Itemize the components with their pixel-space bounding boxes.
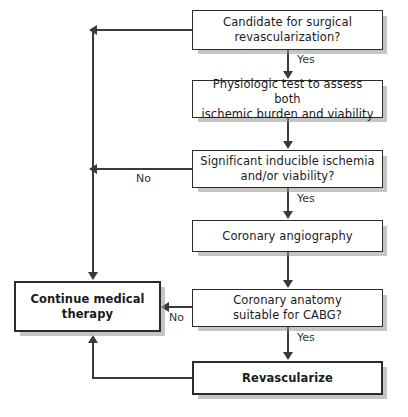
arrowhead-down-angiography — [283, 211, 293, 219]
connector-revascularize-loop-horizontal — [92, 377, 193, 379]
node-candidate-line2: revascularization? — [234, 30, 340, 44]
node-revascularize-text: Revascularize — [236, 371, 339, 386]
connector-revascularize-loop-vertical — [92, 343, 94, 378]
edge-label-yes-1: Yes — [297, 53, 315, 66]
node-significant-line1: Significant inducible ischemia — [200, 154, 374, 168]
node-physiologic-line1: Physiologic test to assess both — [213, 77, 363, 106]
node-physiologic-line2: ischemic burden and viability — [201, 107, 373, 121]
node-significant-line2: and/or viability? — [241, 169, 335, 183]
node-coronary-anatomy-suitable[interactable]: Coronary anatomy suitable for CABG? — [192, 289, 383, 327]
node-medical-therapy-text: Continue medical therapy — [24, 292, 150, 322]
node-revascularize-line1: Revascularize — [242, 371, 333, 385]
node-angiography-line1: Coronary angiography — [222, 229, 352, 243]
flowchart-diagram: Yes Yes Yes No No Candidate for surgical… — [0, 0, 408, 417]
edge-label-yes-3: Yes — [297, 331, 315, 344]
node-significant-text: Significant inducible ischemia and/or vi… — [194, 154, 380, 184]
node-candidate-text: Candidate for surgical revascularization… — [217, 15, 358, 45]
node-anatomy-text: Coronary anatomy suitable for CABG? — [227, 293, 348, 323]
arrowhead-down-medical-therapy — [88, 272, 98, 280]
arrowhead-down-revascularize — [283, 352, 293, 360]
node-anatomy-line1: Coronary anatomy — [233, 293, 342, 307]
arrowhead-left-significant-no — [89, 164, 97, 174]
node-coronary-angiography[interactable]: Coronary angiography — [192, 220, 383, 252]
connector-anatomy-no-horizontal — [169, 306, 193, 308]
node-candidate-line1: Candidate for surgical — [223, 15, 352, 29]
connector-significant-to-angiography — [287, 188, 289, 211]
node-candidate-for-surgical-revascularization[interactable]: Candidate for surgical revascularization… — [192, 10, 383, 50]
node-angiography-text: Coronary angiography — [216, 229, 358, 244]
node-revascularize[interactable]: Revascularize — [192, 361, 383, 395]
node-significant-inducible-ischemia[interactable]: Significant inducible ischemia and/or vi… — [192, 150, 383, 188]
connector-left-trunk-vertical — [92, 29, 94, 273]
arrowhead-down-anatomy — [283, 280, 293, 288]
arrowhead-left-anatomy-no — [161, 302, 169, 312]
node-continue-medical-therapy[interactable]: Continue medical therapy — [14, 281, 161, 332]
connector-anatomy-to-revascularize — [287, 327, 289, 352]
arrowhead-up-medical-therapy — [88, 335, 98, 343]
connector-angiography-to-anatomy — [287, 252, 289, 280]
connector-significant-no-horizontal — [97, 168, 193, 170]
arrowhead-down-significant — [283, 141, 293, 149]
node-medical-therapy-line2: therapy — [62, 307, 113, 321]
arrowhead-left-candidate-no — [89, 25, 97, 35]
node-anatomy-line2: suitable for CABG? — [233, 308, 342, 322]
node-physiologic-test[interactable]: Physiologic test to assess both ischemic… — [192, 80, 383, 118]
edge-label-yes-2: Yes — [297, 192, 315, 205]
connector-candidate-to-physiologic — [287, 50, 289, 72]
node-physiologic-text: Physiologic test to assess both ischemic… — [193, 77, 382, 122]
node-medical-therapy-line1: Continue medical — [30, 292, 144, 306]
edge-label-no-2: No — [169, 311, 184, 324]
edge-label-no-1: No — [136, 172, 151, 185]
connector-candidate-no-horizontal — [97, 29, 193, 31]
